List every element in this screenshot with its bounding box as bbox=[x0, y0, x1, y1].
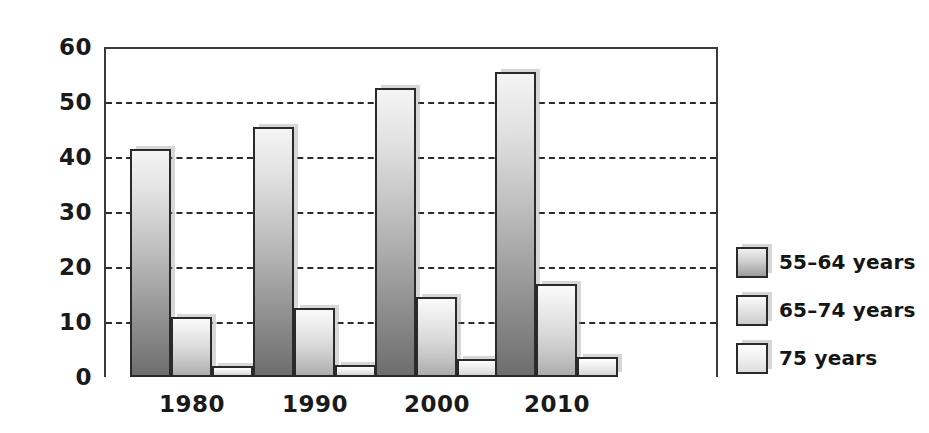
legend-item-55-64[interactable]: 55–64 years bbox=[736, 243, 921, 281]
bar-group-1980 bbox=[130, 47, 254, 377]
bar-1990-55-64[interactable] bbox=[253, 127, 294, 377]
y-tick-label-30: 30 bbox=[14, 199, 92, 225]
y-tick-label-10: 10 bbox=[14, 309, 92, 335]
legend-label-65-74: 65–74 years bbox=[779, 298, 916, 322]
bar-2010-55-64[interactable] bbox=[495, 72, 536, 377]
x-tick-label-2000: 2000 bbox=[372, 391, 502, 417]
y-tick-label-60: 60 bbox=[14, 34, 92, 60]
x-tick-label-1980: 1980 bbox=[127, 391, 257, 417]
y-tick-label-20: 20 bbox=[14, 254, 92, 280]
bar-2010-65-74[interactable] bbox=[536, 284, 577, 378]
x-tick-label-2010: 2010 bbox=[492, 391, 622, 417]
bar-group-2000 bbox=[375, 47, 499, 377]
bar-group-2010 bbox=[495, 47, 619, 377]
legend-label-75-plus: 75 years bbox=[779, 346, 877, 370]
x-tick-label-1990: 1990 bbox=[250, 391, 380, 417]
legend-item-75-plus[interactable]: 75 years bbox=[736, 339, 921, 377]
legend-item-65-74[interactable]: 65–74 years bbox=[736, 291, 921, 329]
y-axis: 60 50 40 30 20 10 0 bbox=[0, 0, 92, 433]
y-tick-label-40: 40 bbox=[14, 144, 92, 170]
legend-label-55-64: 55–64 years bbox=[779, 250, 916, 274]
bar-group-1990 bbox=[253, 47, 377, 377]
legend-swatch-icon-65-74 bbox=[736, 295, 768, 326]
bar-2010-75-plus[interactable] bbox=[577, 357, 618, 377]
bar-1980-65-74[interactable] bbox=[171, 317, 212, 378]
bar-1990-65-74[interactable] bbox=[294, 308, 335, 377]
bar-1990-75-plus[interactable] bbox=[335, 365, 376, 377]
legend-swatch-icon-55-64 bbox=[736, 247, 768, 278]
bar-1980-75-plus[interactable] bbox=[212, 366, 253, 377]
bar-1980-55-64[interactable] bbox=[130, 149, 171, 377]
bars-layer bbox=[104, 47, 718, 377]
bar-2000-55-64[interactable] bbox=[375, 88, 416, 377]
y-tick-label-50: 50 bbox=[14, 89, 92, 115]
bar-2000-65-74[interactable] bbox=[416, 297, 457, 377]
legend-swatch-icon-75-plus bbox=[736, 343, 768, 374]
chart-page: 60 50 40 30 20 10 0 bbox=[0, 0, 929, 433]
bar-2000-75-plus[interactable] bbox=[457, 359, 498, 377]
y-tick-label-0: 0 bbox=[14, 364, 92, 390]
chart-legend: 55–64 years 65–74 years 75 years bbox=[736, 243, 921, 387]
